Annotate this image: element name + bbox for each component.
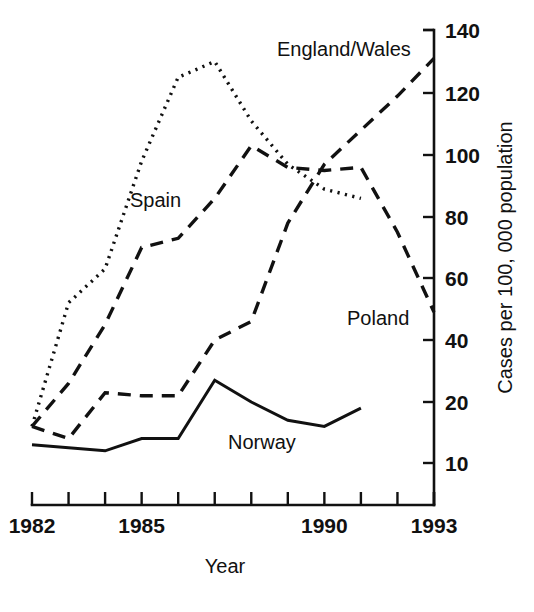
series-label-spain: Spain [130, 189, 181, 211]
y-axis-title: Cases per 100, 000 population [494, 121, 516, 393]
series-line-norway [32, 380, 361, 451]
y-axis-tick-label: 60 [445, 267, 468, 290]
series-line-england-wales [32, 58, 434, 438]
series-label-england-wales: England/Wales [277, 38, 411, 60]
x-axis-tick-label: 1993 [411, 514, 458, 537]
x-axis-tick-label: 1982 [9, 514, 56, 537]
series-line-poland [32, 146, 434, 427]
y-axis-tick-label: 100 [445, 144, 480, 167]
chart-figure: 1401201008060402010Cases per 100, 000 po… [0, 0, 534, 612]
x-axis-tick-label: 1985 [118, 514, 165, 537]
y-axis-tick-label: 140 [445, 19, 480, 42]
y-axis-tick-label: 10 [445, 452, 468, 475]
y-axis-tick-label: 120 [445, 82, 480, 105]
series-line-spain [32, 62, 361, 427]
y-axis-tick-label: 80 [445, 206, 468, 229]
x-axis-tick-label: 1990 [301, 514, 348, 537]
series-label-norway: Norway [228, 431, 296, 453]
x-axis-title: Year [205, 555, 246, 577]
line-chart-canvas: 1401201008060402010Cases per 100, 000 po… [0, 0, 534, 612]
series-label-poland: Poland [347, 307, 409, 329]
y-axis-tick-label: 20 [445, 391, 468, 414]
y-axis-tick-label: 40 [445, 329, 468, 352]
